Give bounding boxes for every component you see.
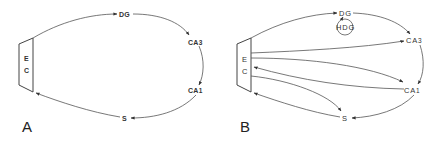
node-dg: DG <box>339 9 352 18</box>
ec-label-e: E <box>242 55 248 64</box>
arrow-ec-to-dg <box>251 13 337 38</box>
arrow-ec-to-ca3 <box>251 41 404 53</box>
panel-b: E C HDG DG CA3 CA1 S B <box>237 9 423 135</box>
arrow-ca1-to-ec <box>254 67 404 89</box>
ec-box <box>19 38 33 92</box>
node-ca1: CA1 <box>404 86 420 95</box>
ec-label-c: C <box>24 67 29 74</box>
panel-label-b: B <box>240 118 250 135</box>
node-ca1: CA1 <box>188 87 203 94</box>
node-s: S <box>122 115 127 122</box>
arrow-ec-to-s <box>251 76 341 111</box>
arrow-ca1-to-s <box>131 95 196 118</box>
node-hdg: HDG <box>336 23 355 32</box>
node-s: S <box>342 114 348 123</box>
node-dg: DG <box>119 11 130 18</box>
arrow-ca3-to-ca1 <box>199 46 203 85</box>
hippocampal-circuit-diagram: E C DG CA3 CA1 S A E C HDG <box>0 0 433 143</box>
ec-label-e: E <box>24 55 29 62</box>
panel-label-a: A <box>22 118 32 135</box>
ec-box <box>237 38 251 92</box>
arrow-ca3-to-ca1 <box>418 45 423 84</box>
arrow-s-to-ec <box>254 93 340 117</box>
arrow-ec-to-dg <box>33 14 117 38</box>
arrow-ca1-to-s <box>352 95 414 118</box>
ec-label-c: C <box>242 67 248 76</box>
panel-a: E C DG CA3 CA1 S A <box>19 11 203 135</box>
node-ca3: CA3 <box>188 39 203 46</box>
arrow-s-to-ec <box>36 93 120 117</box>
arrow-dg-to-ca3 <box>133 14 189 35</box>
arrow-dg-to-ca3 <box>353 13 410 34</box>
arrow-ec-to-ca1 <box>251 58 403 82</box>
node-ca3: CA3 <box>406 36 422 45</box>
